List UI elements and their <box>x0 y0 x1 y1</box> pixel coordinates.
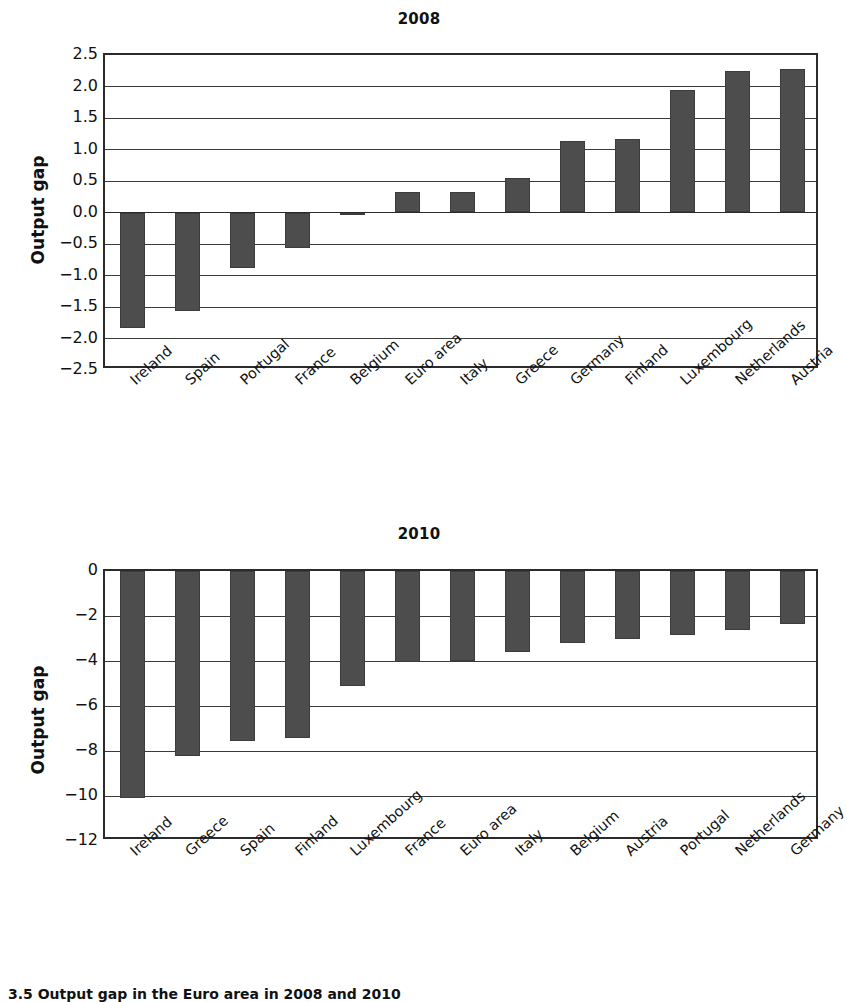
chart-panel-2008: 2008 Output gap 2.52.01.51.00.50.0−0.5−1… <box>0 0 838 470</box>
y-axis-tick-label: −1.0 <box>59 264 98 283</box>
y-axis-tick-label: 0.0 <box>73 201 98 220</box>
bar <box>340 213 365 215</box>
bar <box>725 71 750 212</box>
y-axis-label-2008: Output gap <box>28 150 48 270</box>
figure-caption: 3.5 Output gap in the Euro area in 2008 … <box>8 986 401 1002</box>
gridline <box>105 118 816 119</box>
bar <box>560 571 585 643</box>
gridline <box>105 307 816 308</box>
y-axis-tick-label: −4 <box>74 650 98 669</box>
bar <box>780 571 805 624</box>
gridline <box>105 796 816 797</box>
y-axis-tick-label: −2 <box>74 605 98 624</box>
y-axis-ticks-2008: 2.52.01.51.00.50.0−0.5−1.0−1.5−2.0−2.5 <box>50 53 98 368</box>
gridline <box>105 275 816 276</box>
bar <box>285 571 310 738</box>
bar <box>560 141 585 212</box>
y-axis-ticks-2010: 0−2−4−6−8−10−12 <box>50 569 98 839</box>
bar <box>670 571 695 635</box>
bar <box>230 571 255 741</box>
bar <box>670 90 695 212</box>
y-axis-tick-label: 2.5 <box>73 44 98 63</box>
y-axis-tick-label: −2.5 <box>59 359 98 378</box>
bar <box>615 139 640 212</box>
gridline <box>105 149 816 150</box>
gridline <box>105 706 816 707</box>
y-axis-tick-label: −2.0 <box>59 327 98 346</box>
gridline <box>105 86 816 87</box>
gridline <box>105 751 816 752</box>
gridline <box>105 244 816 245</box>
bar <box>450 571 475 661</box>
bar <box>450 192 475 213</box>
plot-area-2010 <box>103 569 818 839</box>
y-axis-tick-label: 1.5 <box>73 107 98 126</box>
plot-area-2008 <box>103 53 818 368</box>
y-axis-tick-label: −8 <box>74 740 98 759</box>
bar <box>395 192 420 213</box>
y-axis-tick-label: 2.0 <box>73 75 98 94</box>
bar <box>120 571 145 798</box>
y-axis-tick-label: −10 <box>64 785 98 804</box>
bar <box>395 571 420 662</box>
chart-title-2008: 2008 <box>0 10 838 28</box>
chart-title-2010: 2010 <box>0 525 838 543</box>
bar <box>780 69 805 212</box>
y-axis-tick-label: 0.5 <box>73 170 98 189</box>
bar <box>175 213 200 312</box>
y-axis-tick-label: 1.0 <box>73 138 98 157</box>
gridline <box>105 181 816 182</box>
y-axis-tick-label: −12 <box>64 830 98 849</box>
bar <box>175 571 200 756</box>
y-axis-tick-label: 0 <box>88 560 98 579</box>
bar <box>615 571 640 639</box>
y-axis-tick-label: −0.5 <box>59 233 98 252</box>
y-axis-tick-label: −1.5 <box>59 296 98 315</box>
y-axis-tick-label: −6 <box>74 695 98 714</box>
bar <box>505 571 530 652</box>
chart-panel-2010: 2010 Output gap 0−2−4−6−8−10−12 IrelandG… <box>0 470 838 1001</box>
bar <box>505 178 530 212</box>
bar <box>230 213 255 268</box>
bar <box>340 571 365 686</box>
bar <box>725 571 750 630</box>
bar <box>285 213 310 249</box>
y-axis-label-2010: Output gap <box>28 660 48 780</box>
bar <box>120 213 145 328</box>
